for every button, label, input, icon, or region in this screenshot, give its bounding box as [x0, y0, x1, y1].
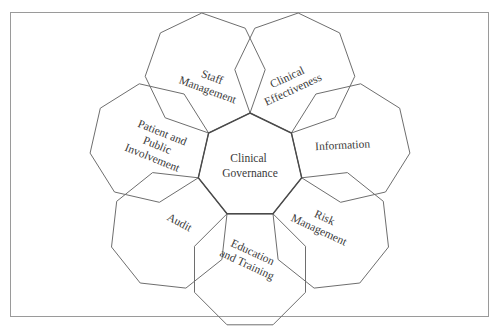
label-clinical-effectiveness: ClinicalEffectiveness: [257, 58, 324, 107]
label-line: Audit: [165, 211, 194, 234]
label-staff-management: StaffManagement: [177, 61, 243, 107]
label-information: Information: [315, 137, 371, 152]
center-label: Clinical Governance: [222, 152, 278, 179]
center-layer: Clinical Governance: [198, 113, 301, 214]
label-risk-management: RiskManagement: [289, 199, 355, 249]
label-line: Information: [315, 137, 371, 152]
clinical-governance-diagram: Clinical Governance ClinicalEffectivenes…: [0, 0, 502, 328]
octagon-audit: [112, 173, 228, 289]
label-audit: Audit: [165, 211, 194, 234]
label-patient-and-public-involvement: Patient andPublicInvolvement: [123, 116, 192, 174]
label-education-and-training: Educationand Training: [218, 234, 282, 283]
center-label-line: Governance: [222, 167, 278, 179]
center-label-line: Clinical: [230, 152, 266, 164]
